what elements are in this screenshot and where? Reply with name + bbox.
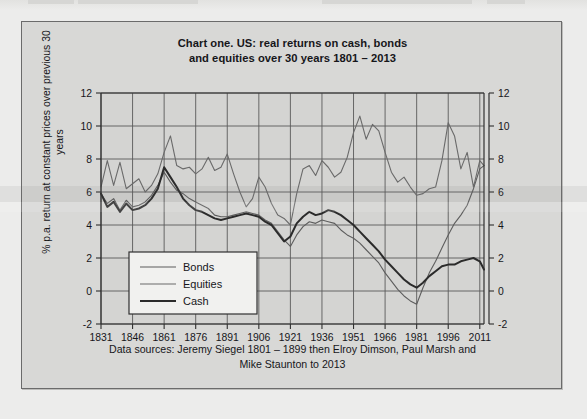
chart-figure-panel: Chart one. US: real returns on cash, bon… xyxy=(21,21,562,389)
y-tick-label-right: 12 xyxy=(498,88,510,99)
page-canvas: Chart one. US: real returns on cash, bon… xyxy=(0,0,587,419)
legend-label-bonds: Bonds xyxy=(183,261,215,273)
plot-area-container: -2-2002244668810101212183118461861187618… xyxy=(22,22,563,390)
y-tick-label-right: 6 xyxy=(498,187,504,198)
legend-label-equities: Equities xyxy=(183,278,223,290)
y-tick-label-left: -2 xyxy=(83,319,92,330)
text-fragment xyxy=(28,0,74,4)
legend-label-cash: Cash xyxy=(183,295,209,307)
y-tick-label-right: 0 xyxy=(498,286,504,297)
y-tick-label-right: 8 xyxy=(498,154,504,165)
chart-caption-line-2: Mike Staunton to 2013 xyxy=(52,357,533,372)
y-tick-label-left: 2 xyxy=(86,253,92,264)
chart-caption-line-1: Data sources: Jeremy Siegel 1801 – 1899 … xyxy=(52,342,533,357)
y-tick-label-left: 8 xyxy=(86,154,92,165)
text-fragment xyxy=(78,0,198,4)
page-top-text-remnant xyxy=(0,0,587,10)
y-tick-label-right: 2 xyxy=(498,253,504,264)
y-tick-label-right: -2 xyxy=(498,319,507,330)
text-fragment xyxy=(322,0,472,4)
y-tick-label-right: 4 xyxy=(498,220,504,231)
chart-caption: Data sources: Jeremy Siegel 1801 – 1899 … xyxy=(52,342,533,372)
y-tick-label-left: 0 xyxy=(86,286,92,297)
y-tick-label-right: 10 xyxy=(498,121,510,132)
y-tick-label-left: 6 xyxy=(86,187,92,198)
y-tick-label-left: 4 xyxy=(86,220,92,231)
y-tick-label-left: 10 xyxy=(80,121,92,132)
chart-svg: -2-2002244668810101212183118461861187618… xyxy=(22,22,563,390)
text-fragment xyxy=(487,0,525,4)
y-tick-label-left: 12 xyxy=(80,88,92,99)
